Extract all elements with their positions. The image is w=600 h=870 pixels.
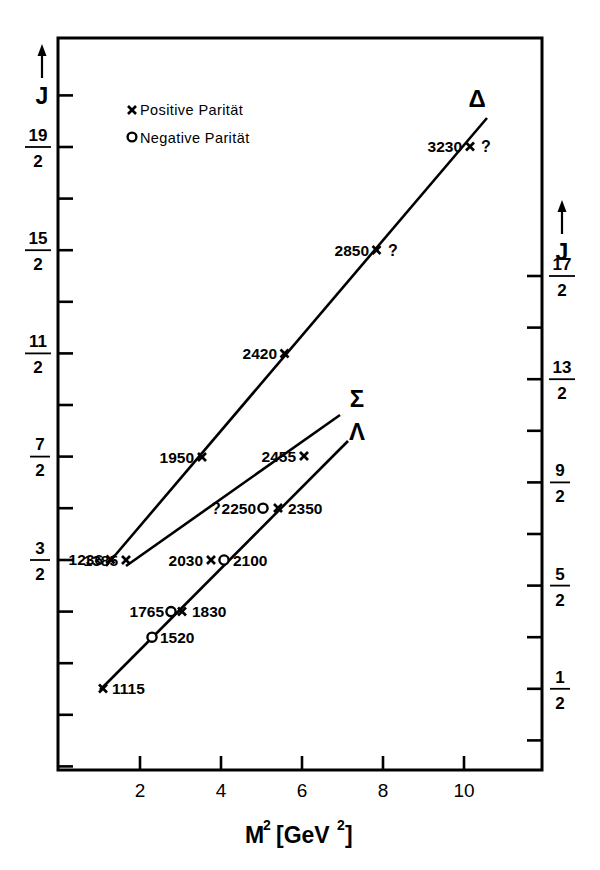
y-left-ticklabel-15-2: 15 2 15/2	[25, 229, 51, 274]
x-axis-ticks	[140, 756, 464, 770]
svg-text:1: 1	[555, 668, 564, 687]
legend-x-marker-icon	[128, 106, 136, 114]
data-label-1765: 1765	[130, 603, 165, 620]
x-ticklabel-2: 2	[135, 780, 146, 801]
svg-text:2: 2	[557, 281, 566, 300]
svg-text:9: 9	[555, 461, 564, 480]
x-ticklabel-6: 6	[297, 780, 308, 801]
data-query-3230: ?	[481, 138, 491, 155]
y-right-ticklabel-17-2: 17 2 17/2	[549, 255, 575, 300]
trajectory-label-delta: Δ	[468, 85, 485, 112]
y-left-axis-symbol: J	[36, 83, 49, 109]
data-point-1385: 1385	[84, 552, 130, 569]
svg-text:2: 2	[33, 152, 42, 171]
marker-o-icon	[147, 633, 156, 642]
svg-text:2: 2	[35, 565, 44, 584]
trajectory-delta: 1236 1950 2420	[69, 85, 491, 568]
y-left-ticklabel-19-2: 19 2 19/2	[25, 126, 51, 171]
data-point-2455: 2455	[262, 448, 308, 465]
marker-o-icon	[258, 504, 267, 513]
data-label-2455: 2455	[262, 448, 297, 465]
svg-text:15: 15	[29, 229, 48, 248]
data-label-1830: 1830	[192, 603, 226, 620]
data-point-3230: 3230 ?	[428, 138, 491, 155]
svg-text:19: 19	[29, 126, 48, 145]
marker-x-icon	[300, 452, 308, 460]
x-axis-title: M 2 [GeV 2 ]	[245, 817, 353, 848]
left-axis-arrow-icon	[38, 44, 47, 78]
legend-item-positive-parity: Positive Parität	[128, 102, 243, 118]
svg-text:7: 7	[35, 435, 44, 454]
y-right-ticklabel-5-2: 5 2 5/2	[550, 565, 570, 610]
y-left-ticklabel-7-2: 7 2 7/2	[30, 435, 50, 480]
svg-text:2: 2	[555, 487, 564, 506]
data-query-2250: ?	[211, 500, 221, 517]
svg-text:5: 5	[555, 565, 564, 584]
marker-x-icon	[122, 556, 130, 564]
data-point-1520: 1520	[147, 629, 194, 646]
x-ticklabel-4: 4	[216, 780, 227, 801]
y-left-ticklabel-11-2: 11 2 11/2	[25, 332, 51, 377]
svg-text:3: 3	[35, 539, 44, 558]
y-left-ticklabel-3-2: 3 2 3/2	[30, 539, 50, 584]
x-axis-title-unit-close: ]	[345, 822, 353, 848]
data-label-1520: 1520	[160, 629, 194, 646]
data-label-3230: 3230	[428, 138, 462, 155]
svg-text:2: 2	[557, 384, 566, 403]
svg-text:2: 2	[555, 591, 564, 610]
y-right-ticklabel-9-2: 9 2 9/2	[550, 461, 570, 506]
data-point-2100: 2100	[219, 552, 267, 569]
trajectory-label-lambda: Λ	[349, 418, 365, 445]
data-point-2030: 2030	[169, 552, 215, 569]
regge-trajectory-figure: J J 19 2 19/2	[0, 0, 600, 870]
x-ticklabel-8: 8	[378, 780, 389, 801]
right-axis-arrow-icon	[558, 200, 567, 234]
svg-text:2: 2	[33, 255, 42, 274]
x-axis-title-M: M	[245, 822, 264, 848]
svg-text:2: 2	[555, 694, 564, 713]
data-point-2250: 2250 ?	[211, 500, 268, 517]
data-label-1385: 1385	[84, 552, 119, 569]
x-axis-title-M-exponent: 2	[263, 817, 271, 833]
svg-text:17: 17	[553, 255, 572, 274]
legend-label-negative: Negative Parität	[140, 130, 250, 146]
marker-o-icon	[219, 555, 228, 564]
svg-text:13: 13	[553, 358, 572, 377]
data-point-1765: 1765	[130, 603, 176, 620]
data-point-2850: 2850 ?	[335, 242, 398, 259]
data-label-2030: 2030	[169, 552, 203, 569]
trajectory-label-sigma: Σ	[350, 385, 364, 412]
data-label-2100: 2100	[233, 552, 267, 569]
x-axis-title-unit-exponent: 2	[337, 817, 345, 833]
y-right-ticklabel-1-2: 1 2 1/2	[550, 668, 570, 713]
data-label-2250: 2250	[222, 500, 256, 517]
x-ticklabel-10: 10	[453, 780, 474, 801]
data-label-2350: 2350	[288, 500, 322, 517]
marker-x-icon	[466, 143, 474, 151]
svg-text:11: 11	[29, 332, 47, 351]
legend-item-negative-parity: Negative Parität	[128, 130, 250, 146]
x-axis-title-unit-open: [GeV	[276, 822, 330, 848]
data-query-2850: ?	[388, 242, 398, 259]
marker-x-icon	[207, 556, 215, 564]
y-right-ticks	[527, 276, 542, 740]
y-left-ticks	[58, 95, 73, 766]
svg-text:2: 2	[35, 461, 44, 480]
y-right-ticklabel-13-2: 13 2 13/2	[549, 358, 575, 403]
data-label-2850: 2850	[335, 242, 369, 259]
legend-o-marker-icon	[128, 133, 137, 142]
chew-frautschi-plot: J J 19 2 19/2	[0, 0, 600, 870]
data-label-1950: 1950	[160, 449, 194, 466]
svg-text:2: 2	[33, 358, 42, 377]
data-label-2420: 2420	[243, 345, 277, 362]
sigma-trajectory-line	[126, 415, 340, 566]
legend-label-positive: Positive Parität	[140, 102, 243, 118]
data-label-1115: 1115	[112, 680, 145, 697]
legend: Positive Parität Negative Parität	[128, 102, 250, 146]
